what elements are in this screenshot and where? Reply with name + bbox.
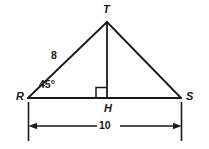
vertex-label-T: T xyxy=(103,4,110,15)
vertex-label-R: R xyxy=(16,91,24,102)
dimension-arrow-left-icon xyxy=(29,123,38,129)
vertex-label-H: H xyxy=(104,103,112,114)
segment-TS xyxy=(107,22,181,98)
dimension-arrow-right-icon xyxy=(173,123,182,129)
right-angle-marker-icon xyxy=(96,88,107,99)
geometry-figure: T R S H 8 45° 10 xyxy=(0,0,209,149)
angle-measure-label-R: 45° xyxy=(39,79,55,90)
side-length-label-RT: 8 xyxy=(51,50,57,61)
dimension-label-base: 10 xyxy=(97,120,113,131)
vertex-label-S: S xyxy=(186,91,193,102)
